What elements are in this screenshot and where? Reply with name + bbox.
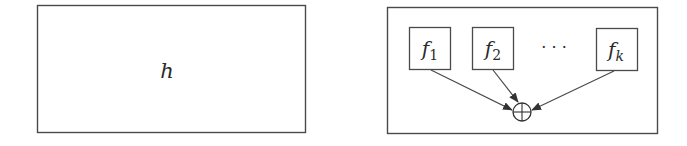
function-label-fk: fk — [606, 38, 624, 64]
diagram-canvas: h f1 f2 · · · fk — [0, 0, 687, 146]
function-node-f1: f1 — [410, 28, 451, 70]
ellipsis: · · · — [541, 38, 566, 57]
arrow-f1-to-combiner — [431, 70, 512, 110]
function-label-f2: f2 — [483, 37, 501, 63]
hypothesis-label: h — [160, 59, 174, 83]
oplus-combiner-icon — [513, 103, 531, 121]
arrow-fk-to-combiner — [532, 71, 614, 110]
right-panel: f1 f2 · · · fk — [388, 8, 658, 134]
function-node-f2: f2 — [473, 28, 514, 70]
arrow-f2-to-combiner — [493, 70, 518, 102]
function-label-f1: f1 — [420, 37, 438, 63]
function-node-fk: fk — [597, 29, 638, 71]
left-panel: h — [38, 6, 306, 133]
